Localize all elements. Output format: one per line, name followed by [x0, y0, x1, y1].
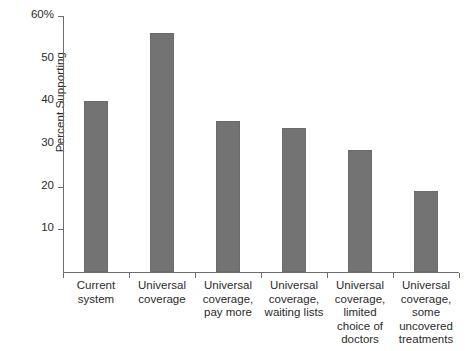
x-category-label: Universal coverage, pay more — [195, 279, 261, 320]
y-tick-label: 50 — [41, 51, 54, 63]
bar — [282, 128, 306, 272]
y-tick: 50 — [58, 59, 63, 60]
x-category-label: Current system — [63, 279, 129, 306]
x-tick — [393, 273, 394, 278]
x-category-label: Universal coverage, limited choice of do… — [327, 279, 393, 347]
y-tick-label: 60% — [31, 8, 54, 20]
y-tick: 20 — [58, 187, 63, 188]
y-tick: 10 — [58, 229, 63, 230]
bar — [150, 33, 174, 272]
x-tick — [195, 273, 196, 278]
x-tick — [129, 273, 130, 278]
bar-chart: Percent Supporting 102030405060% Current… — [0, 0, 471, 351]
y-tick: 30 — [58, 144, 63, 145]
x-axis-category-labels: Current systemUniversal coverageUniversa… — [63, 279, 459, 349]
x-tick — [327, 273, 328, 278]
x-tick — [459, 273, 460, 278]
y-tick-label: 40 — [41, 93, 54, 105]
x-category-label: Universal coverage — [129, 279, 195, 306]
bar — [216, 121, 240, 272]
x-tick — [63, 273, 64, 278]
x-category-label: Universal coverage, waiting lists — [261, 279, 327, 320]
bar — [414, 191, 438, 272]
y-tick: 60% — [58, 16, 63, 17]
bar — [348, 150, 372, 272]
bar — [84, 101, 108, 272]
y-tick-label: 10 — [41, 221, 54, 233]
y-axis-line — [63, 16, 64, 273]
plot-area: 102030405060% — [63, 16, 459, 273]
y-tick-label: 30 — [41, 136, 54, 148]
x-tick — [261, 273, 262, 278]
y-tick-label: 20 — [41, 179, 54, 191]
x-category-label: Universal coverage, some uncovered treat… — [393, 279, 459, 347]
y-tick: 40 — [58, 101, 63, 102]
